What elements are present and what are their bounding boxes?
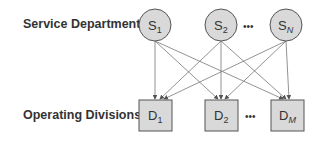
service-node-s1: S1 <box>139 9 171 41</box>
allocation-diagram: S1 S2 ••• SN D1 D2 ••• DM <box>0 0 322 145</box>
arrow-sn-dm <box>286 41 289 99</box>
service-ellipsis: ••• <box>243 21 254 32</box>
division-node-dm: DM <box>271 100 304 131</box>
arrow-s2-dm <box>221 41 286 99</box>
arrow-sn-d1 <box>164 41 286 99</box>
division-node-d1: D1 <box>139 100 172 131</box>
service-node-sn: SN <box>270 9 302 41</box>
division-node-d2: D2 <box>205 100 238 131</box>
arrow-s2-d1 <box>160 41 221 99</box>
division-ellipsis: ••• <box>245 111 256 122</box>
arrows <box>155 41 289 99</box>
service-node-s2: S2 <box>205 9 237 41</box>
arrow-s1-d2 <box>155 41 218 99</box>
arrow-s1-dm <box>155 41 283 99</box>
